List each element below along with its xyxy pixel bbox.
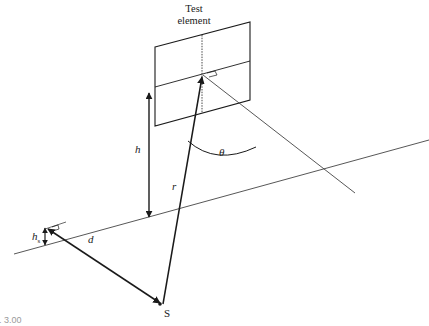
- label-hs-sub: s: [38, 237, 41, 245]
- label-hs: hs: [32, 231, 40, 245]
- test-element-title: Test element: [168, 3, 220, 27]
- label-h: h: [135, 144, 141, 155]
- d-vector: [48, 229, 160, 303]
- panel-mid-horizontal: [155, 61, 250, 87]
- label-r: r: [172, 181, 176, 192]
- figure-caption-fragment: ... 3.00: [0, 316, 22, 325]
- r-vector: [163, 77, 202, 304]
- test-element-panel: [155, 22, 250, 126]
- geometry-diagram: [0, 0, 429, 326]
- label-source: S: [164, 308, 170, 319]
- label-d: d: [88, 234, 94, 245]
- normal-line: [203, 75, 355, 193]
- source-point: [158, 302, 162, 306]
- label-theta: θ: [219, 147, 224, 158]
- title-line-2: element: [168, 15, 220, 27]
- title-line-1: Test: [168, 3, 220, 15]
